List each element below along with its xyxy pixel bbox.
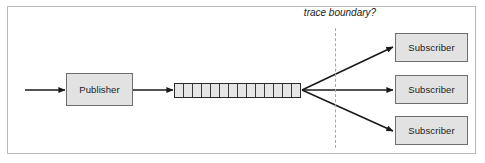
- trace-boundary-line: [335, 28, 336, 148]
- trace-boundary-label: trace boundary?: [292, 7, 388, 18]
- diagram-canvas: trace boundary? Publisher Subscriber Sub…: [0, 0, 485, 163]
- queue-cell: [292, 84, 300, 97]
- publisher-node: Publisher: [66, 73, 133, 106]
- queue-cell: [211, 84, 220, 97]
- subscriber-node-1: Subscriber: [395, 33, 468, 62]
- subscriber-label-2: Subscriber: [408, 84, 454, 95]
- subscriber-label-1: Subscriber: [408, 42, 454, 53]
- queue-cell: [238, 84, 247, 97]
- queue-cell: [256, 84, 265, 97]
- queue-cell: [265, 84, 274, 97]
- queue-cell: [229, 84, 238, 97]
- queue-cell: [247, 84, 256, 97]
- queue-cell: [202, 84, 211, 97]
- queue-cell: [283, 84, 292, 97]
- queue-cell: [220, 84, 229, 97]
- queue-cell: [175, 84, 184, 97]
- queue-cell: [184, 84, 193, 97]
- queue-cell: [193, 84, 202, 97]
- subscriber-node-2: Subscriber: [395, 75, 468, 104]
- queue-cell: [274, 84, 283, 97]
- subscriber-label-3: Subscriber: [408, 125, 454, 136]
- message-queue: [174, 83, 301, 98]
- subscriber-node-3: Subscriber: [395, 116, 468, 145]
- publisher-label: Publisher: [79, 84, 120, 95]
